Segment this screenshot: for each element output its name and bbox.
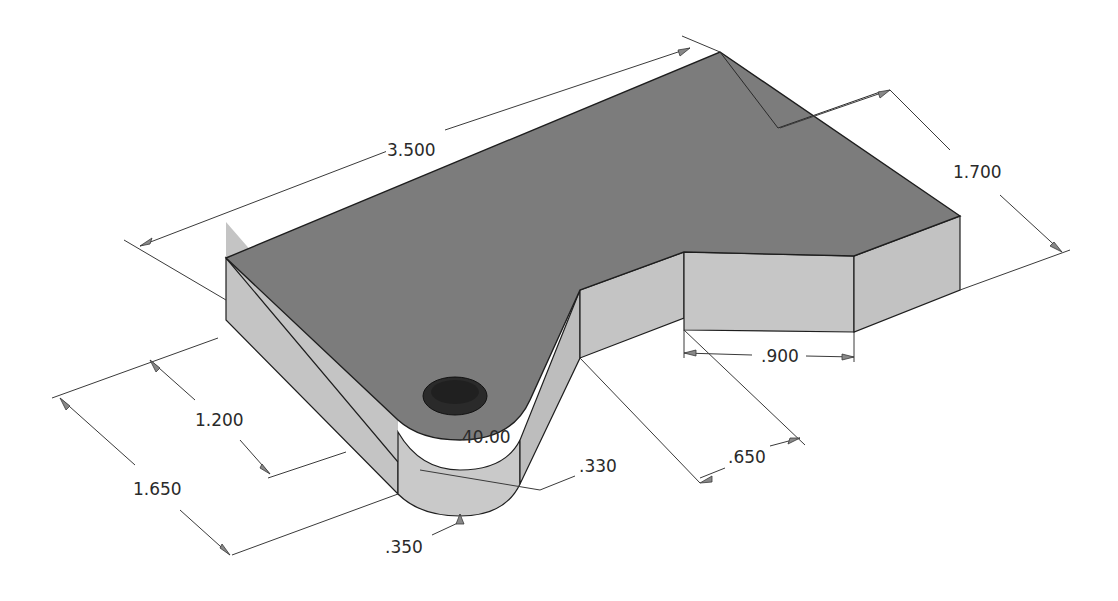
- dim-left-width: 1.650: [132, 480, 183, 498]
- dim-overall-length: 3.500: [386, 141, 437, 159]
- dim-notch-depth: .650: [727, 448, 767, 466]
- dim-hole-offset: .330: [578, 457, 618, 475]
- dim-notch-length: .900: [760, 347, 800, 365]
- dim-angle: 40.00: [461, 428, 512, 446]
- dim-tab-radius: .350: [384, 538, 424, 556]
- dim-tab-offset: 1.200: [194, 411, 245, 429]
- part-drawing: 3.500 1.700 1.200 1.650 40.00 .330 .350 …: [0, 0, 1118, 601]
- dim-right-width: 1.700: [952, 163, 1003, 181]
